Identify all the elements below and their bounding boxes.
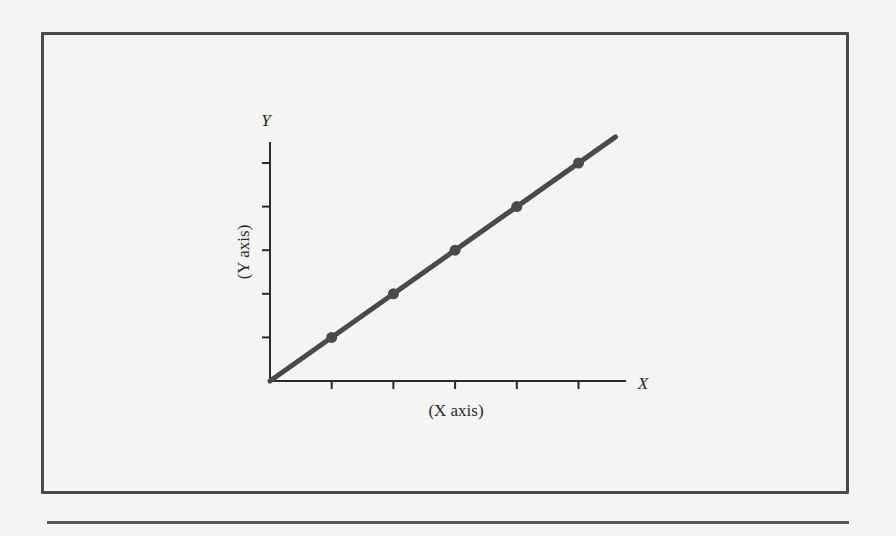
data-point bbox=[450, 245, 461, 256]
data-point bbox=[388, 288, 399, 299]
line-chart: Y X (X axis) (Y axis) bbox=[0, 0, 896, 536]
data-point bbox=[326, 332, 337, 343]
data-line bbox=[270, 137, 616, 381]
data-series bbox=[270, 137, 616, 381]
x-axis-label: (X axis) bbox=[428, 401, 483, 420]
y-axis-label: (Y axis) bbox=[234, 225, 253, 280]
y-axis-letter: Y bbox=[261, 111, 272, 130]
x-axis-letter: X bbox=[637, 374, 649, 393]
data-point bbox=[573, 158, 584, 169]
data-point bbox=[511, 201, 522, 212]
